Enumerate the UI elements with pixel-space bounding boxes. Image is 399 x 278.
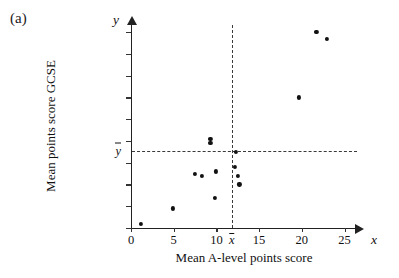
data-point bbox=[208, 141, 212, 145]
data-point bbox=[324, 36, 328, 40]
x-tick bbox=[216, 228, 217, 232]
y-axis-symbol: y bbox=[113, 12, 119, 28]
data-point bbox=[213, 195, 217, 199]
y-tick bbox=[126, 32, 131, 33]
x-tick-label: 5 bbox=[171, 233, 177, 248]
x-tick bbox=[345, 228, 346, 232]
x-tick-label: 15 bbox=[253, 233, 266, 248]
data-point bbox=[193, 171, 197, 175]
x-axis-line bbox=[131, 228, 357, 229]
y-axis-line bbox=[131, 24, 132, 228]
data-point bbox=[234, 150, 238, 154]
x-tick bbox=[131, 228, 132, 232]
x-tick bbox=[174, 228, 175, 232]
data-point bbox=[233, 165, 237, 169]
y-mean-label: y bbox=[115, 143, 121, 158]
data-point bbox=[236, 174, 240, 178]
data-point bbox=[213, 169, 217, 173]
y-tick bbox=[126, 97, 131, 98]
data-point bbox=[200, 174, 204, 178]
x-axis-title: Mean A-level points score bbox=[131, 250, 357, 266]
y-tick bbox=[126, 141, 131, 142]
figure-root: (a) 0510152025 102030405060708090100 x y… bbox=[0, 0, 399, 278]
x-tick-label: 10 bbox=[210, 233, 223, 248]
x-tick-label: 20 bbox=[296, 233, 309, 248]
x-mean-dashed-line bbox=[232, 25, 233, 228]
y-axis-arrow-icon bbox=[127, 16, 137, 25]
y-mean-dashed-line bbox=[132, 151, 357, 152]
x-mean-label: x bbox=[229, 233, 235, 248]
y-axis-title: Mean points score GCSE bbox=[43, 46, 59, 206]
x-tick bbox=[259, 228, 260, 232]
y-tick bbox=[126, 228, 131, 229]
x-axis-arrow-icon bbox=[355, 224, 364, 234]
data-point bbox=[314, 30, 318, 34]
x-tick bbox=[302, 228, 303, 232]
y-tick bbox=[126, 76, 131, 77]
scatter-plot: 0510152025 102030405060708090100 x y x y… bbox=[0, 0, 399, 278]
data-point bbox=[139, 222, 143, 226]
data-point bbox=[237, 182, 241, 186]
data-point bbox=[297, 95, 301, 99]
y-tick bbox=[126, 206, 131, 207]
x-tick-label: 25 bbox=[338, 233, 351, 248]
y-tick bbox=[126, 184, 131, 185]
x-axis-symbol: x bbox=[371, 232, 377, 248]
y-tick bbox=[126, 163, 131, 164]
data-point bbox=[171, 206, 175, 210]
y-tick bbox=[126, 119, 131, 120]
x-tick-label: 0 bbox=[128, 233, 134, 248]
y-axis-ticks: 102030405060708090100 bbox=[0, 0, 124, 278]
y-tick bbox=[126, 54, 131, 55]
